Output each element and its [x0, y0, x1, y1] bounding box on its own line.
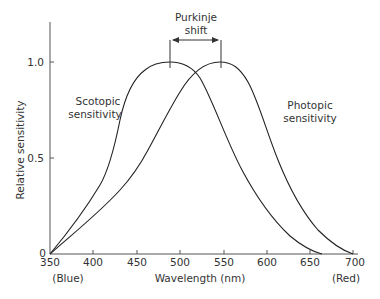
photopic-label-line1: Photopic [287, 99, 333, 111]
x-tick-450: 450 [127, 256, 147, 268]
x-tick-700: 700 [345, 256, 365, 268]
x-ticks [93, 250, 353, 254]
y-tick-1.0: 1.0 [27, 56, 44, 68]
scotopic-curve [50, 62, 322, 254]
y-ticks [50, 62, 54, 158]
scotopic-label-line1: Scotopic [76, 95, 121, 107]
y-axis-label: Relative sensitivity [14, 100, 26, 199]
x-tick-650: 650 [300, 256, 320, 268]
scotopic-label-line2: sensitivity [68, 108, 121, 120]
red-label: (Red) [332, 272, 360, 284]
x-axis-label: Wavelength (nm) [155, 272, 246, 284]
photopic-curve [50, 62, 353, 254]
x-tick-550: 550 [214, 256, 234, 268]
purkinje-label-line2: shift [185, 24, 208, 36]
blue-label: (Blue) [52, 272, 83, 284]
y-tick-0.5: 0.5 [27, 152, 44, 164]
x-tick-400: 400 [83, 256, 103, 268]
photopic-label-line2: sensitivity [283, 112, 336, 124]
x-tick-500: 500 [170, 256, 190, 268]
sensitivity-chart: 1.0 0.5 0 350 400 450 500 550 600 650 70… [0, 0, 380, 299]
x-tick-350: 350 [40, 256, 60, 268]
x-tick-600: 600 [257, 256, 277, 268]
purkinje-label-line1: Purkinje [175, 11, 217, 23]
